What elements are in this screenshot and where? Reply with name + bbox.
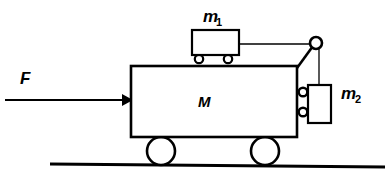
m2-roller-bottom-icon [299, 108, 308, 117]
force-label: F [20, 69, 31, 88]
hanging-block-label-subscript: 2 [355, 93, 361, 105]
physics-diagram-svg: F M m 1 m 2 [0, 0, 389, 184]
small-cart-body [192, 30, 239, 55]
big-cart-label: M [198, 93, 211, 110]
small-cart-label: m 1 [203, 7, 222, 28]
hanging-block-label-base: m [341, 84, 356, 103]
pulley-strut [297, 46, 313, 68]
physics-diagram-canvas: F M m 1 m 2 [0, 0, 389, 184]
cart-wheel-left-icon [147, 137, 175, 165]
ground-line [50, 164, 385, 167]
hanging-block-label: m 2 [341, 84, 361, 105]
small-cart-label-subscript: 1 [216, 16, 222, 28]
m2-roller-top-icon [299, 88, 308, 97]
hanging-block-body [308, 85, 331, 123]
cart-wheel-right-icon [251, 137, 279, 165]
big-cart-body [131, 66, 297, 137]
force-arrow [5, 94, 133, 106]
pulley-icon [310, 37, 322, 49]
